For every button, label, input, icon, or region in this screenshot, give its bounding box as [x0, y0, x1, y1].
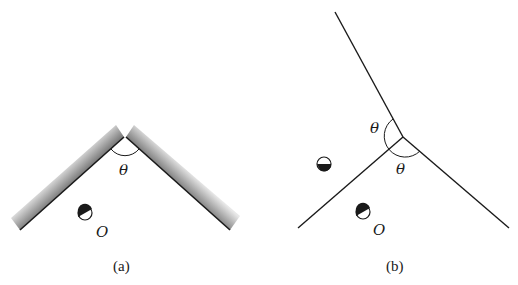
angle-label-lower: θ [396, 160, 405, 178]
mirror-diagram: θ O (a) θ θ O (b) [0, 0, 518, 285]
right-mirror [126, 125, 240, 230]
object-icon [78, 204, 92, 220]
mirror-line-upper [335, 12, 403, 137]
angle-label: θ [119, 161, 128, 179]
angle-arc [111, 149, 139, 156]
object-label: O [96, 223, 108, 241]
left-mirror-surface [20, 137, 124, 230]
panel-b: θ θ O (b) [298, 12, 509, 275]
image-object-icon [317, 157, 331, 171]
mirror-line-lower-right [403, 137, 509, 228]
panel-caption: (b) [386, 258, 404, 275]
left-mirror [11, 125, 124, 230]
panel-caption: (a) [113, 258, 130, 275]
panel-a: θ O (a) [11, 125, 240, 275]
right-mirror-surface [126, 137, 230, 230]
object-label: O [373, 221, 385, 239]
object-icon [356, 203, 370, 219]
mirror-line-lower-left [298, 137, 403, 228]
angle-label-upper: θ [370, 119, 379, 137]
